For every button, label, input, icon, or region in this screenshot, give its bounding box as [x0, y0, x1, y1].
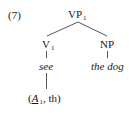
theta-arg-theme: th [48, 92, 57, 104]
node-np: NP [100, 38, 114, 50]
leaf-word: see [39, 60, 53, 72]
leaf-the-dog: the dog [91, 60, 124, 72]
node-label: NP [100, 38, 114, 50]
example-number-text: (7) [8, 9, 21, 21]
theta-separator: , [43, 92, 46, 104]
node-vp1: VP1 [68, 8, 87, 24]
theta-grid: (A1, th) [28, 92, 61, 108]
node-label: V [42, 38, 50, 50]
node-subscript: 1 [51, 44, 55, 52]
branch-vp-to-np [78, 22, 107, 36]
theta-close-paren: ) [57, 92, 61, 104]
theta-arg-agent: A [32, 92, 39, 104]
leaf-see: see [39, 60, 53, 72]
node-subscript: 1 [83, 14, 87, 22]
branch-vp-to-v [47, 22, 78, 36]
node-label: VP [68, 8, 82, 20]
node-v1: V1 [42, 38, 54, 54]
leaf-word: the dog [91, 60, 124, 72]
example-number: (7) [8, 9, 21, 21]
